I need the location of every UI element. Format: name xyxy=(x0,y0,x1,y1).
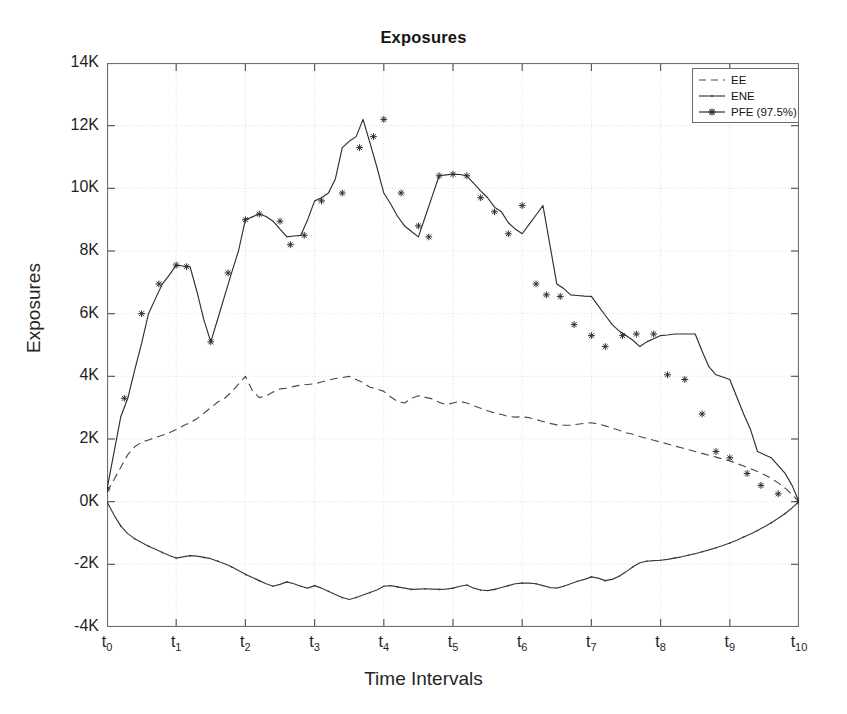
x-tick-label: t9 xyxy=(707,633,753,653)
legend: EE ENE PFE (97.5%) xyxy=(692,68,799,123)
y-tick-label: 14K xyxy=(45,53,99,71)
y-axis-title: Exposures xyxy=(23,208,45,408)
chart-figure: Exposures Exposures Time Intervals -4K-2… xyxy=(0,0,847,714)
chart-title: Exposures xyxy=(0,28,847,47)
legend-item-ene[interactable]: ENE xyxy=(697,88,798,104)
y-tick-label: 0K xyxy=(45,492,99,510)
y-tick-label: -2K xyxy=(45,554,99,572)
legend-sample-solid-line xyxy=(697,90,727,102)
x-tick-label: t3 xyxy=(292,633,338,653)
legend-item-pfe[interactable]: PFE (97.5%) xyxy=(697,104,798,120)
plot-area xyxy=(107,63,799,627)
x-tick-label: t5 xyxy=(430,633,476,653)
x-tick-label: t7 xyxy=(568,633,614,653)
x-tick-label: t10 xyxy=(776,633,822,653)
legend-label-pfe: PFE (97.5%) xyxy=(727,106,797,118)
y-tick-label: 6K xyxy=(45,304,99,322)
x-tick-label: t2 xyxy=(222,633,268,653)
legend-item-ee[interactable]: EE xyxy=(697,72,798,88)
x-tick-label: t0 xyxy=(84,633,130,653)
y-tick-label: 2K xyxy=(45,429,99,447)
y-tick-label: 12K xyxy=(45,116,99,134)
x-tick-label: t8 xyxy=(638,633,684,653)
legend-sample-star-line xyxy=(697,106,727,118)
legend-label-ene: ENE xyxy=(727,90,755,102)
legend-label-ee: EE xyxy=(727,74,746,86)
x-axis-title: Time Intervals xyxy=(0,668,847,690)
plot-svg xyxy=(107,63,799,627)
y-tick-label: 10K xyxy=(45,178,99,196)
y-tick-label: 8K xyxy=(45,241,99,259)
x-tick-label: t4 xyxy=(361,633,407,653)
series-markers-pfe xyxy=(107,116,799,505)
y-tick-label: 4K xyxy=(45,366,99,384)
legend-sample-dashed-line xyxy=(697,74,727,86)
x-tick-label: t6 xyxy=(499,633,545,653)
x-tick-label: t1 xyxy=(153,633,199,653)
